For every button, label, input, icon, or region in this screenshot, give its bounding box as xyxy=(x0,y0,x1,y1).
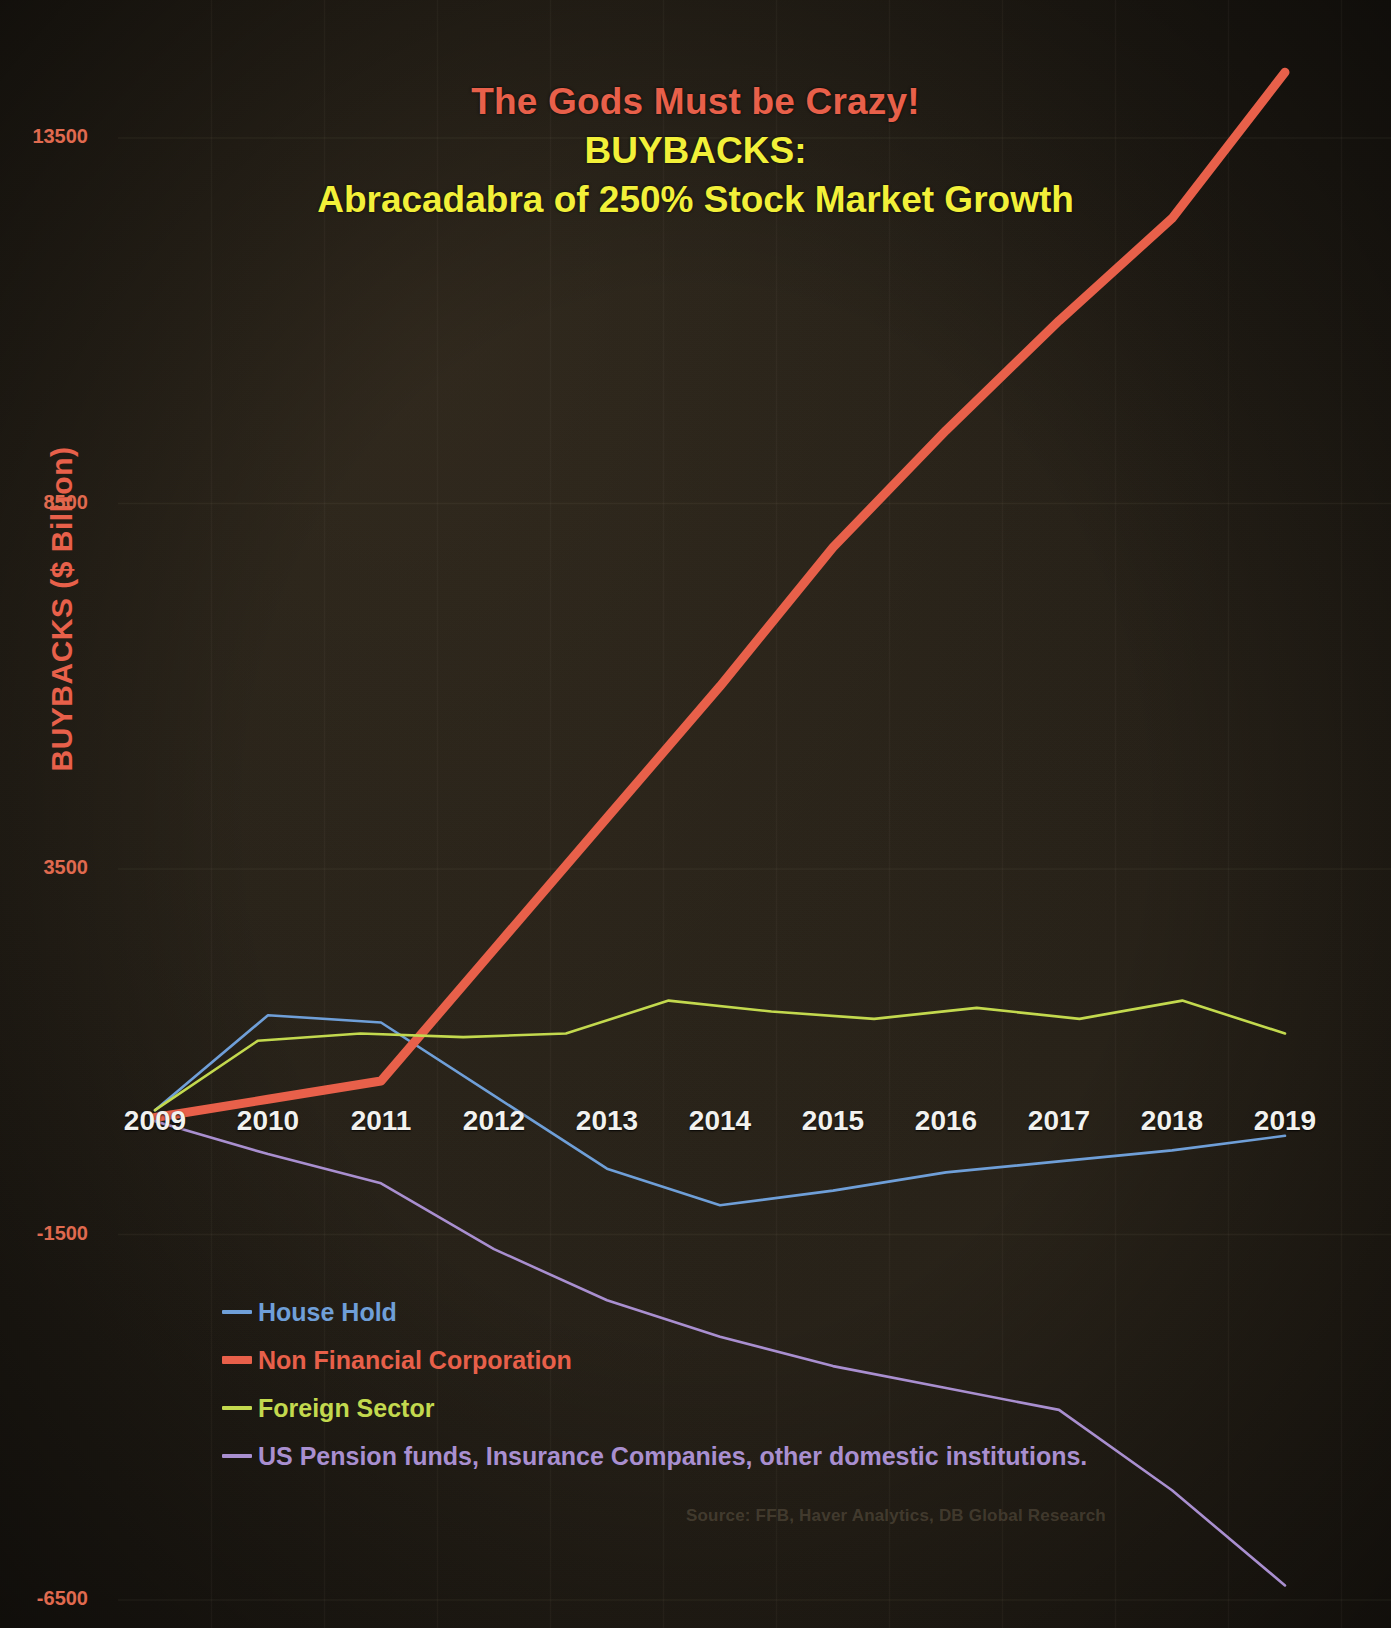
x-axis-tick-label: 2019 xyxy=(1230,1105,1340,1137)
x-axis-tick-label: 2012 xyxy=(439,1105,549,1137)
legend-item[interactable]: House Hold xyxy=(222,1288,1087,1336)
legend-color-swatch xyxy=(222,1454,252,1458)
x-axis-tick-label: 2010 xyxy=(213,1105,323,1137)
chart-title-line1: The Gods Must be Crazy! xyxy=(0,78,1391,127)
chart-legend: House HoldNon Financial CorporationForei… xyxy=(222,1288,1087,1480)
y-axis-tick-label: 13500 xyxy=(10,125,88,148)
x-axis-tick-label: 2011 xyxy=(326,1105,436,1137)
y-axis-tick-label: 3500 xyxy=(10,856,88,879)
chart-slide: The Gods Must be Crazy! BUYBACKS: Abraca… xyxy=(0,0,1391,1628)
x-axis-tick-label: 2009 xyxy=(100,1105,210,1137)
source-note: Source: FFB, Haver Analytics, DB Global … xyxy=(686,1506,1106,1526)
legend-item[interactable]: US Pension funds, Insurance Companies, o… xyxy=(222,1432,1087,1480)
x-axis-tick-label: 2017 xyxy=(1004,1105,1114,1137)
legend-color-swatch xyxy=(222,1310,252,1314)
x-axis-tick-label: 2013 xyxy=(552,1105,662,1137)
x-axis-tick-label: 2014 xyxy=(665,1105,775,1137)
chart-title-line3: Abracadabra of 250% Stock Market Growth xyxy=(0,176,1391,225)
y-axis-tick-label: -1500 xyxy=(10,1222,88,1245)
legend-item-label: House Hold xyxy=(258,1298,397,1327)
x-axis-tick-label: 2018 xyxy=(1117,1105,1227,1137)
x-axis-tick-label: 2015 xyxy=(778,1105,888,1137)
legend-item-label: Foreign Sector xyxy=(258,1394,434,1423)
chart-title-line2: BUYBACKS: xyxy=(0,127,1391,176)
chart-title-block: The Gods Must be Crazy! BUYBACKS: Abraca… xyxy=(0,78,1391,224)
legend-color-swatch xyxy=(222,1356,252,1364)
legend-item[interactable]: Foreign Sector xyxy=(222,1384,1087,1432)
x-axis-tick-label: 2016 xyxy=(891,1105,1001,1137)
y-axis-tick-label: 8500 xyxy=(10,491,88,514)
legend-item-label: US Pension funds, Insurance Companies, o… xyxy=(258,1442,1087,1471)
legend-item-label: Non Financial Corporation xyxy=(258,1346,572,1375)
legend-item[interactable]: Non Financial Corporation xyxy=(222,1336,1087,1384)
y-axis-tick-label: -6500 xyxy=(10,1587,88,1610)
legend-color-swatch xyxy=(222,1406,252,1410)
